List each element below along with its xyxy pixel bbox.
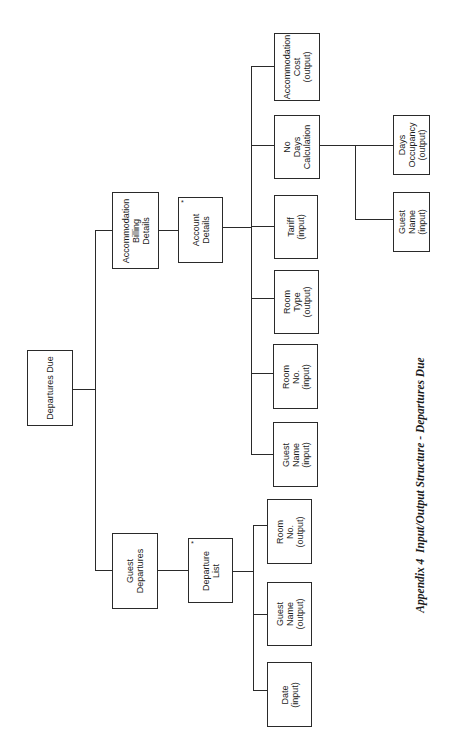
connector-line <box>253 690 268 691</box>
box-days-occupancy: Days Occupancy (output) <box>393 115 430 175</box>
box-accommodation-cost: Accommodation Cost (output) <box>274 33 320 101</box>
connector-line <box>251 298 275 299</box>
connector-line <box>253 614 268 615</box>
connector-line <box>95 230 96 571</box>
box-no-days-calculation: No Days Calculation <box>274 115 320 179</box>
box-accommodation-billing-details: Accommodation Billing Details <box>112 192 159 269</box>
iteration-marker: * <box>191 540 194 547</box>
box-account-details: * Account Details <box>178 197 223 263</box>
box-departures-due: Departures Due <box>27 350 73 426</box>
box-label: No Days Calculation <box>282 125 312 170</box>
connector-line <box>251 226 275 227</box>
box-label: Departure List <box>201 550 221 590</box>
connector-line <box>253 525 268 526</box>
connector-line <box>222 227 252 228</box>
box-label: Room No. (output) <box>275 516 305 547</box>
page-header-partial <box>168 0 272 4</box>
box-departure-list: * Departure List <box>188 538 233 603</box>
iteration-marker: * <box>181 199 184 206</box>
box-label: Departures Due <box>45 356 55 420</box>
connector-line <box>355 219 394 220</box>
connector-line <box>158 230 179 231</box>
box-room-no-output: Room No. (output) <box>267 499 312 564</box>
box-tariff: Tariff (input) <box>274 195 318 259</box>
box-label: Accommodation Billing Details <box>121 198 151 263</box>
connector-line <box>251 454 274 455</box>
box-label: Guest Departures <box>125 549 145 594</box>
box-calc-guest-name-input: Guest Name (input) <box>393 192 430 252</box>
box-guest-departures: Guest Departures <box>112 533 158 609</box>
connector-line <box>253 525 254 691</box>
connector-line <box>157 570 189 571</box>
box-label: Account Details <box>191 214 211 247</box>
connector-line <box>95 570 113 571</box>
box-label: Guest Name (input) <box>281 442 311 468</box>
connector-line <box>251 66 252 455</box>
connector-line <box>355 145 356 220</box>
box-label: Tariff (input) <box>286 214 306 240</box>
box-room-type: Room Type (output) <box>274 270 319 334</box>
box-label: Room Type (output) <box>282 286 312 317</box>
connector-line <box>319 145 394 146</box>
box-label: Date (input) <box>280 682 300 708</box>
box-label: Guest Name (output) <box>275 598 305 629</box>
connector-line <box>251 373 274 374</box>
box-label: Room No. (input) <box>281 364 311 390</box>
figure-caption: Appendix 4 Input/Output Structure - Depa… <box>414 357 426 612</box>
connector-line <box>72 389 96 390</box>
connector-line <box>95 230 113 231</box>
box-room-no-input: Room No. (input) <box>273 344 318 409</box>
box-label: Guest Name (input) <box>397 209 427 235</box>
box-label: Days Occupancy (output) <box>397 122 427 167</box>
box-guest-name-input: Guest Name (input) <box>273 422 318 487</box>
connector-line <box>251 66 275 67</box>
box-guest-name-output: Guest Name (output) <box>267 582 312 646</box>
connector-line <box>232 571 254 572</box>
connector-line <box>251 145 275 146</box>
box-label: Accommodation Cost (output) <box>282 35 312 100</box>
box-date-input: Date (input) <box>267 662 312 727</box>
